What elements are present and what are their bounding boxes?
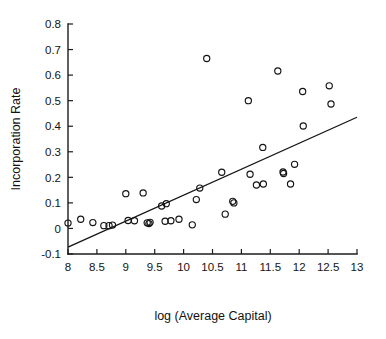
data-point-marker bbox=[193, 196, 199, 202]
y-tick-label: 0.6 bbox=[45, 69, 61, 81]
data-point-marker bbox=[140, 190, 146, 196]
plot-canvas: 88.599.51010.51111.51212.513 -0.100.10.2… bbox=[0, 0, 386, 339]
data-point-marker bbox=[300, 123, 306, 129]
y-tick-label: 0.7 bbox=[45, 44, 61, 56]
data-points bbox=[65, 55, 334, 228]
data-point-marker bbox=[90, 219, 96, 225]
x-tick-label: 10 bbox=[177, 261, 190, 273]
data-point-marker bbox=[78, 216, 84, 222]
x-tick-label: 11 bbox=[235, 261, 247, 273]
data-point-marker bbox=[189, 222, 195, 228]
data-point-marker bbox=[260, 181, 266, 187]
y-tick-label: 0.5 bbox=[45, 95, 61, 107]
data-point-marker bbox=[300, 88, 306, 94]
y-tick-label: 0.1 bbox=[45, 197, 61, 209]
x-axis-ticks: 88.599.51010.51111.51212.513 bbox=[65, 249, 364, 273]
x-axis-title: log (Average Capital) bbox=[154, 309, 271, 323]
data-point-marker bbox=[123, 191, 129, 197]
scatter-chart-figure: 88.599.51010.51111.51212.513 -0.100.10.2… bbox=[0, 0, 386, 339]
y-tick-label: 0.3 bbox=[45, 146, 61, 158]
data-point-marker bbox=[219, 169, 225, 175]
data-point-marker bbox=[204, 55, 210, 61]
data-point-marker bbox=[287, 181, 293, 187]
data-point-marker bbox=[253, 182, 259, 188]
data-point-marker bbox=[247, 171, 253, 177]
data-point-marker bbox=[326, 83, 332, 89]
y-tick-label: 0 bbox=[55, 223, 61, 235]
data-point-marker bbox=[291, 161, 297, 167]
x-tick-label: 10.5 bbox=[201, 261, 223, 273]
data-point-marker bbox=[328, 101, 334, 107]
x-tick-label: 9 bbox=[123, 261, 129, 273]
data-point-marker bbox=[245, 98, 251, 104]
data-point-marker bbox=[131, 218, 137, 224]
y-tick-label: -0.1 bbox=[41, 248, 61, 260]
x-tick-label: 13 bbox=[351, 261, 364, 273]
y-tick-label: 0.4 bbox=[45, 120, 62, 132]
data-point-marker bbox=[275, 68, 281, 74]
data-point-marker bbox=[222, 211, 228, 217]
y-tick-label: 0.2 bbox=[45, 172, 61, 184]
x-tick-label: 11.5 bbox=[260, 261, 282, 273]
data-point-marker bbox=[260, 144, 266, 150]
x-tick-label: 8 bbox=[65, 261, 71, 273]
x-tick-label: 12 bbox=[293, 261, 306, 273]
x-tick-label: 9.5 bbox=[147, 261, 163, 273]
axis-group bbox=[68, 24, 357, 254]
data-point-marker bbox=[176, 216, 182, 222]
x-tick-label: 12.5 bbox=[317, 261, 339, 273]
y-axis-title: Incorporation Rate bbox=[9, 88, 23, 191]
x-tick-label: 8.5 bbox=[89, 261, 105, 273]
y-tick-label: 0.8 bbox=[45, 18, 61, 30]
